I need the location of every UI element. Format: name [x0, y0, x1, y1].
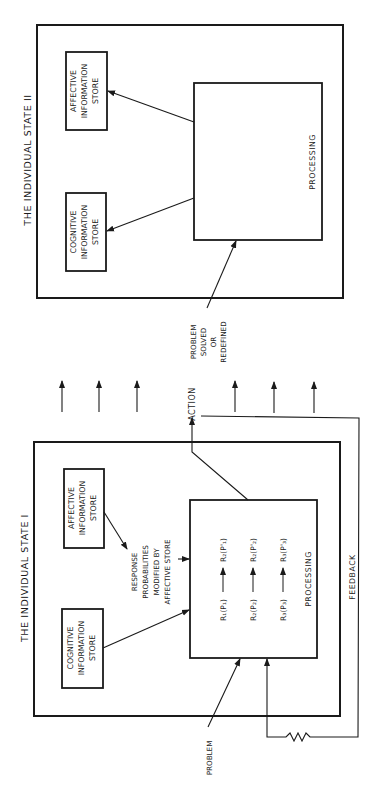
- svg-text:R₂(P'₁): R₂(P'₁): [219, 538, 228, 562]
- processing-label: PROCESSING: [308, 134, 317, 190]
- svg-text:MODIFIED BY: MODIFIED BY: [152, 548, 161, 596]
- svg-text:PROBLEM: PROBLEM: [189, 325, 198, 360]
- state-one-processing: R₁(P₁) R₂(P'₁) R₂(P₂) R₂(P'₂) R₃(P₃) R₃(…: [190, 500, 317, 658]
- svg-text:OR: OR: [209, 337, 218, 348]
- processing-label: PROCESSING: [304, 551, 313, 607]
- diagram-canvas: THE INDIVIDUAL STATE II AFFECTIVE INFORM…: [0, 0, 371, 794]
- affective-store-line-3: STORE: [91, 78, 100, 104]
- cognitive-store-line-1: COGNITIVE: [69, 210, 78, 253]
- cognitive-store-line-3: STORE: [88, 635, 97, 661]
- svg-text:AFFECTIVE STORE: AFFECTIVE STORE: [163, 539, 172, 605]
- action-output-line: [192, 418, 248, 500]
- processing-row-3: R₃(P₃) R₃(P'₃): [279, 538, 288, 621]
- svg-text:R₁(P₁): R₁(P₁): [219, 599, 228, 621]
- state-one: THE INDIVIDUAL STATE I AFFECTIVE INFORMA…: [19, 418, 340, 775]
- arrow-to-affective-store: [108, 91, 194, 122]
- affective-store-line-2: INFORMATION: [78, 481, 87, 536]
- svg-text:R₃(P'₃): R₃(P'₃): [279, 538, 288, 562]
- arrow-affective-to-modifier: [104, 512, 127, 549]
- cognitive-store-line-2: INFORMATION: [77, 621, 86, 676]
- affective-store-line-1: AFFECTIVE: [69, 70, 78, 112]
- processing-row-1: R₁(P₁) R₂(P'₁): [219, 538, 228, 621]
- svg-text:RESPONSE: RESPONSE: [130, 552, 139, 591]
- cognitive-store-line-2: INFORMATION: [80, 205, 89, 260]
- affective-store-line-1: AFFECTIVE: [67, 487, 76, 529]
- action-label: ACTION: [188, 387, 197, 420]
- state-two-cognitive-store: COGNITIVE INFORMATION STORE: [66, 193, 106, 271]
- svg-text:SOLVED: SOLVED: [199, 327, 208, 356]
- svg-text:R₂(P₂): R₂(P₂): [249, 599, 258, 621]
- cognitive-store-line-3: STORE: [91, 219, 100, 245]
- problem-solved-label: PROBLEM SOLVED OR REDEFINED: [189, 321, 228, 363]
- processing-row-2: R₂(P₂) R₂(P'₂): [249, 538, 258, 621]
- cognitive-store-line-1: COGNITIVE: [66, 626, 75, 669]
- state-two-affective-store: AFFECTIVE INFORMATION STORE: [66, 52, 107, 130]
- svg-text:REDEFINED: REDEFINED: [219, 321, 228, 363]
- transition-arrows: ACTION: [62, 381, 314, 421]
- state-one-cognitive-store: COGNITIVE INFORMATION STORE: [62, 609, 103, 688]
- problem-label: PROBLEM: [205, 741, 214, 776]
- svg-text:PROBABILITIES: PROBABILITIES: [141, 545, 150, 599]
- affective-store-line-3: STORE: [89, 495, 98, 521]
- state-one-affective-store: AFFECTIVE INFORMATION STORE: [64, 469, 104, 548]
- state-two-title: THE INDIVIDUAL STATE II: [22, 94, 33, 226]
- arrow-to-cognitive-store: [107, 198, 194, 231]
- feedback-label: FEEDBACK: [348, 554, 357, 600]
- state-two-processing: PROCESSING: [194, 83, 322, 240]
- svg-text:R₂(P'₂): R₂(P'₂): [249, 538, 258, 562]
- state-two: THE INDIVIDUAL STATE II AFFECTIVE INFORM…: [22, 25, 343, 363]
- arrow-cognitive-to-processing: [103, 610, 189, 648]
- svg-text:R₃(P₃): R₃(P₃): [279, 599, 288, 621]
- affective-store-line-2: INFORMATION: [80, 64, 89, 119]
- state-one-title: THE INDIVIDUAL STATE I: [19, 514, 30, 643]
- response-probabilities-label: RESPONSE PROBABILITIES MODIFIED BY AFFEC…: [130, 539, 172, 605]
